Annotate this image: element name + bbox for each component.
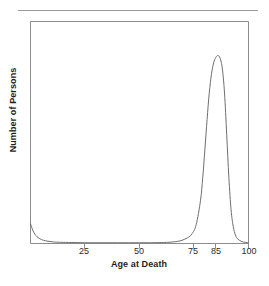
- death-distribution-curve: [31, 55, 249, 242]
- distribution-chart-figure: Number of Persons Age at Death 25 50 75 …: [0, 0, 269, 286]
- x-axis-label: Age at Death: [30, 259, 248, 269]
- x-axis-ticks: [85, 244, 249, 249]
- x-tick-label-25: 25: [79, 246, 89, 256]
- x-tick-label-100: 100: [241, 246, 256, 256]
- plot-canvas: [0, 0, 269, 286]
- x-tick-label-85: 85: [211, 246, 221, 256]
- plot-frame: [31, 22, 249, 244]
- x-tick-label-50: 50: [134, 246, 144, 256]
- y-axis-label: Number of Persons: [8, 35, 18, 185]
- x-tick-label-75: 75: [188, 246, 198, 256]
